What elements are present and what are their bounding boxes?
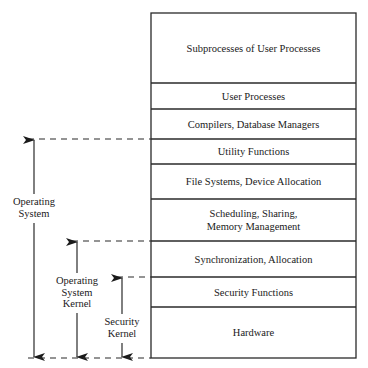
layer-label: Hardware <box>151 307 356 358</box>
layer-label: Security Functions <box>151 277 356 307</box>
layer-label: Compilers, Database Managers <box>151 109 356 139</box>
bracket-label: Operating System <box>2 196 66 219</box>
layer-label: Scheduling, Sharing, Memory Management <box>151 199 356 241</box>
layer-label: Utility Functions <box>151 139 356 164</box>
layer-label: User Processes <box>151 83 356 109</box>
layer-label: Subprocesses of User Processes <box>151 13 356 83</box>
bracket-label: Security Kernel <box>90 316 154 339</box>
layer-label: Synchronization, Allocation <box>151 241 356 277</box>
bracket-label: Operating System Kernel <box>45 275 109 310</box>
layer-label: File Systems, Device Allocation <box>151 164 356 199</box>
